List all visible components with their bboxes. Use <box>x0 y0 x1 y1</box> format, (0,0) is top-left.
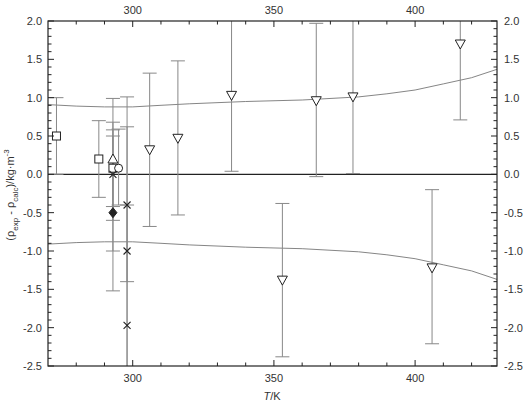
y-tick-label: -1.5 <box>23 283 42 295</box>
triangle-down-marker <box>311 97 321 106</box>
triangle-down-marker <box>227 91 237 100</box>
triangle-up-marker <box>108 154 118 163</box>
y-tick-label: 1.0 <box>27 92 42 104</box>
x-axis-label: T/K <box>263 390 281 402</box>
y-tick-label: 0.0 <box>27 168 42 180</box>
tick-labels: 3003003503504004002.02.01.51.51.01.00.50… <box>23 4 523 384</box>
triangle-down-marker <box>173 134 183 143</box>
y-tick-label: -2.0 <box>23 322 42 334</box>
triangle-down-marker <box>455 40 465 49</box>
x-tick-label-top: 400 <box>406 4 424 16</box>
square-marker <box>95 155 103 163</box>
y-tick-label-right: -2.5 <box>504 360 523 372</box>
upper-band-line <box>48 69 497 107</box>
triangle-down-marker <box>145 146 155 155</box>
y-tick-label-right: 1.0 <box>504 92 519 104</box>
scatter-plot: 3003003503504004002.02.01.51.51.01.00.50… <box>0 0 528 406</box>
y-axis-label: (ρexp - ρcalc)/kg·m-3 <box>2 149 20 241</box>
y-tick-label: -2.5 <box>23 360 42 372</box>
x-tick-label: 400 <box>406 372 424 384</box>
chart-container: 3003003503504004002.02.01.51.51.01.00.50… <box>0 0 528 406</box>
axes-frame <box>48 21 497 366</box>
y-tick-label: -1.0 <box>23 245 42 257</box>
y-tick-label-right: 0.5 <box>504 130 519 142</box>
plot-frame <box>48 21 497 366</box>
x-tick-label: 300 <box>124 372 142 384</box>
x-tick-label-top: 350 <box>265 4 283 16</box>
x-tick-label-top: 300 <box>124 4 142 16</box>
lower-band-line <box>48 242 497 280</box>
error-bars <box>49 21 467 366</box>
axis-ticks <box>48 21 497 366</box>
data-markers <box>52 40 465 329</box>
y-tick-label-right: -2.0 <box>504 322 523 334</box>
triangle-down-marker <box>427 264 437 273</box>
y-tick-label-right: 1.5 <box>504 53 519 65</box>
y-tick-label-right: -1.0 <box>504 245 523 257</box>
y-tick-label: -0.5 <box>23 207 42 219</box>
y-tick-label-right: -0.5 <box>504 207 523 219</box>
diamond-marker <box>109 208 117 218</box>
y-tick-label-right: 2.0 <box>504 15 519 27</box>
y-tick-label-right: -1.5 <box>504 283 523 295</box>
y-tick-label: 2.0 <box>27 15 42 27</box>
triangle-down-marker <box>277 276 287 285</box>
y-tick-label: 0.5 <box>27 130 42 142</box>
y-tick-label: 1.5 <box>27 53 42 65</box>
y-tick-label-right: 0.0 <box>504 168 519 180</box>
x-tick-label: 350 <box>265 372 283 384</box>
